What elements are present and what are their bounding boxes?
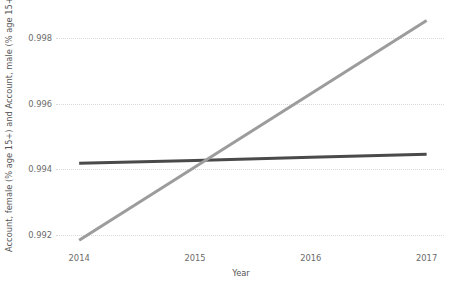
x-tick-label: 2017 [407, 253, 447, 264]
y-tick-label: 0.998 [10, 33, 52, 43]
y-tick-label: 0.994 [10, 164, 52, 174]
chart-title [0, 0, 449, 4]
x-tick-label: 2016 [291, 253, 331, 264]
series-line [79, 21, 426, 241]
x-axis-label: Year [62, 268, 420, 278]
x-tick-label: 2015 [175, 253, 215, 264]
series-lines [56, 10, 444, 250]
x-tick-label: 2014 [59, 253, 99, 264]
x-axis-tick-labels: 2014201520162017 [56, 253, 444, 265]
plot-area [56, 10, 444, 250]
chart-figure: Account, female (% age 15+) and Account,… [0, 0, 449, 286]
y-tick-label: 0.996 [10, 99, 52, 109]
series-line [79, 154, 426, 163]
y-axis-tick-labels: 0.9920.9940.9960.998 [8, 10, 52, 250]
y-tick-label: 0.992 [10, 230, 52, 240]
